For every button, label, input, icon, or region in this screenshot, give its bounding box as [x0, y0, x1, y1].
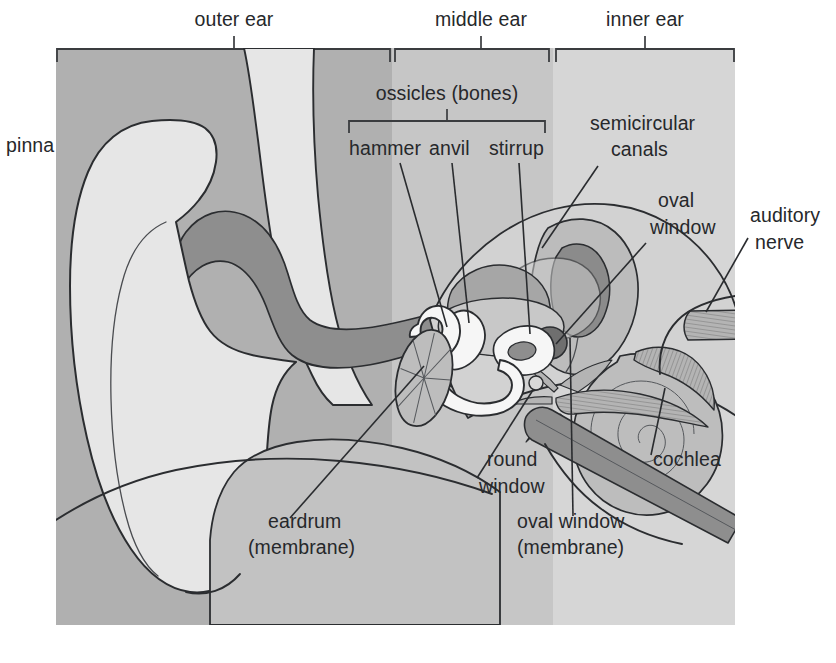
- lower-tissue-mass: [210, 440, 500, 625]
- label-semicircular-canals-line2: canals: [611, 138, 668, 160]
- label-pinna: pinna: [6, 134, 54, 156]
- ear-anatomy-figure: outer ear middle ear inner ear: [0, 0, 836, 663]
- label-auditory-nerve-line2: nerve: [755, 231, 804, 253]
- ossicles-group-label: ossicles (bones): [376, 82, 519, 104]
- label-oval-window-top-line2: window: [649, 216, 716, 238]
- region-label-outer-ear: outer ear: [195, 8, 274, 30]
- label-round-window-line2: window: [478, 475, 545, 497]
- label-eardrum-line1: eardrum: [268, 510, 341, 532]
- region-label-inner-ear: inner ear: [606, 8, 684, 30]
- label-oval-window-bottom-line2: (membrane): [517, 536, 624, 558]
- label-anvil: anvil: [429, 137, 470, 159]
- label-eardrum-line2: (membrane): [248, 536, 355, 558]
- auditory-nerve: [684, 309, 800, 340]
- label-semicircular-canals-line1: semicircular: [590, 112, 696, 134]
- label-cochlea: cochlea: [653, 448, 721, 470]
- ear-diagram-canvas: outer ear middle ear inner ear: [0, 0, 836, 663]
- label-auditory-nerve-line1: auditory: [750, 204, 820, 226]
- label-stirrup: stirrup: [489, 137, 544, 159]
- label-oval-window-top-line1: oval: [658, 189, 694, 211]
- label-hammer: hammer: [349, 137, 422, 159]
- label-oval-window-bottom-line1: oval window: [517, 510, 625, 532]
- round-window: [529, 376, 543, 390]
- label-round-window-line1: round: [487, 448, 537, 470]
- region-label-middle-ear: middle ear: [435, 8, 527, 30]
